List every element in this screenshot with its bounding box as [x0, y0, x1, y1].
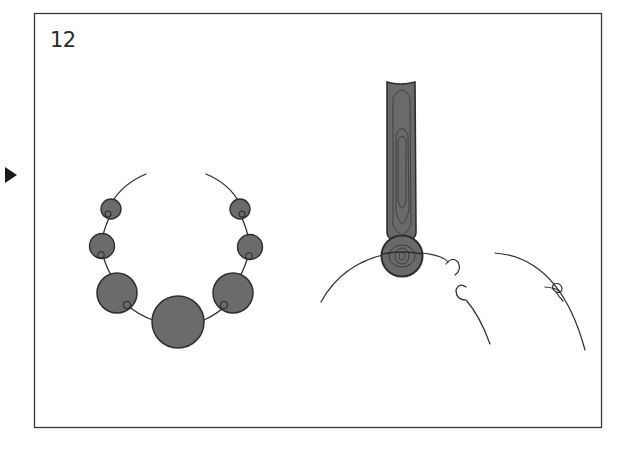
step-number: 12: [50, 30, 76, 51]
stick-ball-end: [382, 236, 424, 277]
cord-curl-lower: [456, 285, 490, 344]
cord-knot: [545, 284, 563, 302]
bead-left-large: [97, 273, 137, 313]
bead-right-mid: [238, 235, 263, 260]
wood-stick: [387, 82, 416, 240]
bead-necklace: [90, 174, 263, 348]
bead-left-mid: [90, 234, 115, 259]
instruction-step-canvas: 12: [0, 0, 632, 455]
bead-right-small: [230, 199, 250, 219]
diagram-svg: [0, 0, 632, 455]
bead-center-largest: [152, 296, 204, 348]
cord-curl-upper: [446, 259, 459, 275]
stick-and-cord: [321, 82, 585, 350]
step-frame: [35, 14, 602, 428]
bead-left-small: [101, 199, 121, 219]
play-triangle-icon: [5, 167, 17, 183]
bead-right-large: [213, 273, 253, 313]
cord-arc-right: [495, 253, 585, 350]
